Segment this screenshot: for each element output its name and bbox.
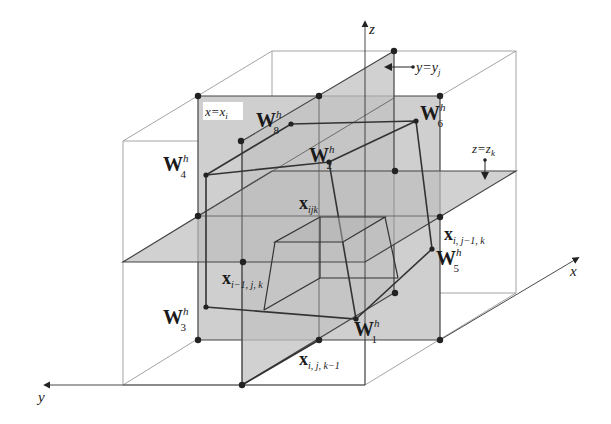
- x-axis-label: x: [569, 263, 577, 279]
- grid-cell-diagram: z y x x=xi y=yj z=zk Wh8 Wh2 Wh6 Wh4 Wh3…: [0, 0, 611, 424]
- y-axis-label: y: [36, 389, 45, 405]
- w4-label: Wh4: [163, 152, 189, 180]
- x-km1-label: xi, j, k−1: [299, 349, 340, 371]
- x-axis: [440, 258, 578, 340]
- x-jm1-label: xi, j−1, k: [444, 224, 485, 246]
- z-plane-label: z=zk: [471, 141, 496, 158]
- w3-label: Wh3: [163, 305, 189, 333]
- z-axis-label: z: [368, 21, 375, 37]
- x-plane-label: x=xi: [204, 104, 228, 121]
- y-plane-label: y=yj: [414, 60, 441, 77]
